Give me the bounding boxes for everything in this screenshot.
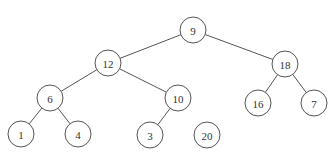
tree-edge-9-18 [205, 35, 273, 60]
tree-edge-12-6 [61, 70, 97, 92]
tree-node-6: 6 [37, 85, 63, 111]
node-label: 1 [18, 129, 24, 141]
tree-edge-18-7 [293, 74, 306, 92]
tree-nodes: 9121861016714320 [8, 17, 327, 148]
tree-node-9: 9 [180, 17, 206, 43]
binary-tree-figure: 9121861016714320 [0, 0, 336, 159]
tree-edge-6-1 [29, 108, 42, 124]
tree-edge-9-12 [120, 35, 181, 59]
node-label: 9 [190, 25, 196, 37]
tree-edge-12-10 [120, 69, 167, 92]
tree-node-4: 4 [65, 121, 91, 147]
tree-node-10: 10 [165, 85, 191, 111]
node-label: 7 [311, 98, 317, 110]
tree-node-3: 3 [137, 122, 163, 148]
tree-node-20: 20 [194, 122, 220, 148]
tree-edge-6-4 [58, 108, 70, 123]
node-label: 12 [103, 58, 114, 70]
tree-edge-18-16 [265, 75, 277, 93]
node-label: 20 [202, 130, 214, 142]
node-label: 16 [253, 98, 265, 110]
node-label: 18 [280, 59, 292, 71]
tree-node-12: 12 [95, 50, 121, 76]
node-label: 4 [75, 129, 81, 141]
node-label: 10 [173, 93, 185, 105]
tree-edge-10-3 [158, 108, 170, 124]
tree-node-1: 1 [8, 121, 34, 147]
node-label: 3 [147, 130, 153, 142]
tree-node-18: 18 [272, 51, 298, 77]
tree-canvas: 9121861016714320 [0, 0, 336, 159]
tree-node-16: 16 [245, 90, 271, 116]
node-label: 6 [47, 93, 53, 105]
tree-node-7: 7 [301, 90, 327, 116]
